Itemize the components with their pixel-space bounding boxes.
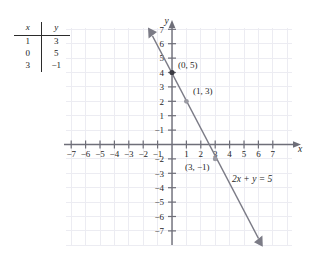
y-tick-label: 2 — [160, 97, 165, 107]
y-axis — [169, 20, 176, 245]
line-2x-plus-y-equals-5 — [148, 28, 263, 247]
y-tick-label: 4 — [160, 68, 165, 78]
y-axis-label: y — [163, 16, 169, 26]
x-tick-label: 4 — [227, 149, 232, 159]
point-marker-3-neg1 — [213, 157, 218, 162]
x-tick-label: −2 — [138, 149, 148, 159]
x-tick-label: 5 — [242, 149, 247, 159]
y-tick-label: 3 — [160, 82, 165, 92]
point-label-1-3: (1, 3) — [193, 86, 213, 96]
x-tick-label: 1 — [184, 149, 189, 159]
point-marker-1-3 — [184, 99, 189, 104]
y-tick-label: −4 — [154, 183, 164, 193]
x-tick-label: 7 — [271, 149, 276, 159]
point-label-3-neg1: (3, −1) — [185, 162, 210, 172]
x-tick-label: 2 — [199, 149, 204, 159]
linear-equation-figure: x y 1 3 0 5 3 −1 — [0, 0, 314, 254]
x-tick-label: −4 — [110, 149, 120, 159]
y-tick-label: −6 — [154, 212, 164, 222]
y-tick-label: −7 — [154, 226, 164, 236]
y-tick-label: −5 — [154, 197, 164, 207]
y-tick-label: 6 — [160, 39, 165, 49]
x-tick-label: −7 — [66, 149, 76, 159]
x-tick-label: −6 — [81, 149, 91, 159]
x-tick-label: 6 — [256, 149, 261, 159]
x-axis-label: x — [297, 144, 303, 154]
point-label-0-5: (0, 5) — [178, 60, 198, 70]
y-tick-label: −2 — [154, 154, 164, 164]
coordinate-plane: −7 −6 −5 −4 −3 −2 −1 1 2 3 4 5 6 7 7 6 5… — [0, 0, 314, 254]
y-tick-label: 1 — [160, 111, 165, 121]
x-tick-label: −3 — [124, 149, 134, 159]
point-marker-0-5 — [169, 70, 174, 75]
y-tick-label: 7 — [160, 25, 165, 35]
x-tick-label: −5 — [95, 149, 105, 159]
x-tick-labels: −7 −6 −5 −4 −3 −2 −1 1 2 3 4 5 6 7 — [66, 149, 275, 159]
y-tick-label: −1 — [154, 125, 164, 135]
equation-label: 2x + y = 5 — [232, 174, 273, 184]
y-tick-label: −3 — [154, 169, 164, 179]
